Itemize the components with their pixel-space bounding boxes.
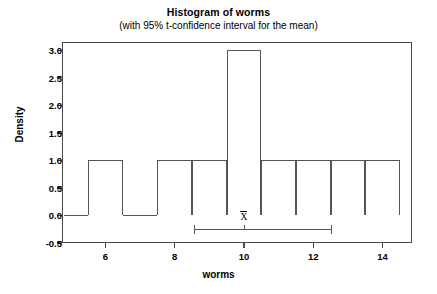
x-tick-label: 6 — [90, 251, 120, 262]
x-tick-label: 14 — [368, 251, 398, 262]
y-axis-ticks: -0.50.00.51.01.52.02.53.0 — [28, 0, 62, 294]
histogram-figure: Histogram of worms (with 95% t-confidenc… — [0, 0, 437, 294]
histogram-bar — [88, 160, 123, 215]
histogram-bar — [261, 160, 296, 215]
histogram-bar — [296, 160, 331, 215]
histogram-bar — [365, 160, 400, 215]
y-axis-label: Density — [14, 90, 25, 160]
y-tick-label: 0.0 — [36, 210, 62, 221]
histogram-bar — [192, 160, 227, 215]
y-tick-label: -0.5 — [36, 238, 62, 249]
y-tick-label: 2.0 — [36, 100, 62, 111]
confidence-interval-cap-upper — [331, 225, 332, 234]
confidence-interval-cap-lower — [194, 225, 195, 234]
plot-area: X — [62, 42, 412, 243]
y-tick-label: 3.0 — [36, 45, 62, 56]
x-axis-label: worms — [0, 269, 437, 280]
sample-mean-label: X — [232, 211, 256, 222]
chart-title: Histogram of worms — [0, 6, 437, 18]
x-tick-mark — [243, 243, 244, 248]
histogram-baseline-segment — [123, 215, 158, 216]
x-tick-mark — [105, 243, 106, 248]
x-tick-label: 10 — [229, 251, 259, 262]
x-tick-mark — [174, 243, 175, 248]
y-tick-label: 2.5 — [36, 72, 62, 83]
histogram-bar — [227, 50, 262, 215]
x-tick-label: 8 — [160, 251, 190, 262]
y-tick-label: 1.0 — [36, 155, 62, 166]
histogram-bar — [331, 160, 366, 215]
x-tick-mark — [313, 243, 314, 248]
y-tick-label: 1.5 — [36, 127, 62, 138]
histogram-baseline-segment — [64, 215, 88, 216]
x-tick-mark — [382, 243, 383, 248]
x-tick-label: 12 — [298, 251, 328, 262]
mean-x-glyph: X — [232, 213, 256, 222]
confidence-interval-line — [194, 229, 331, 230]
confidence-interval-mean-tick — [244, 225, 245, 230]
chart-subtitle: (with 95% t-confidence interval for the … — [0, 20, 437, 31]
histogram-bar — [157, 160, 192, 215]
y-tick-label: 0.5 — [36, 182, 62, 193]
